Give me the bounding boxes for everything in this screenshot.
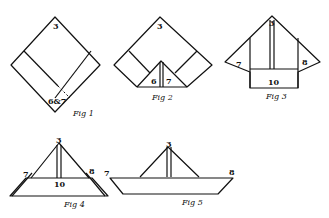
fig1-label-top: 3 xyxy=(53,21,59,31)
fig3-label-left: 7 xyxy=(236,59,242,69)
fig3-caption: Fig 3 xyxy=(265,92,287,101)
fig4-label-center: 10 xyxy=(54,179,66,189)
fig2: 3 6 7 Fig 2 xyxy=(114,17,212,102)
fig2-label-right: 7 xyxy=(166,76,172,86)
fig3-label-right: 8 xyxy=(302,57,308,67)
fig2-caption: Fig 2 xyxy=(151,93,173,102)
fig1-label-bottom: 6&7 xyxy=(48,96,66,106)
fig2-label-left: 6 xyxy=(151,76,157,86)
fig5-label-top: 3 xyxy=(166,139,172,149)
fig1: 3 6&7 Fig 1 xyxy=(11,17,100,118)
fig2-label-top: 3 xyxy=(157,21,163,31)
fig4-label-left: 7 xyxy=(23,169,29,179)
fig5-caption: Fig 5 xyxy=(181,198,203,207)
fig4: 3 7 8 10 Fig 4 xyxy=(10,135,108,209)
fig3-label-bottom: 10 xyxy=(268,77,280,87)
fig4-caption: Fig 4 xyxy=(63,200,85,209)
fig4-label-top: 3 xyxy=(56,135,62,145)
fig3: 3 7 8 10 Fig 3 xyxy=(225,16,320,101)
fig5-label-left: 7 xyxy=(104,168,110,178)
fig3-label-top: 3 xyxy=(269,18,275,28)
fig5-label-right: 8 xyxy=(229,167,235,177)
folding-diagram: 3 6&7 Fig 1 3 6 7 Fig 2 3 7 8 10 Fig 3 xyxy=(0,0,329,218)
fig1-caption: Fig 1 xyxy=(72,109,94,118)
fig5: 3 7 8 Fig 5 xyxy=(104,139,235,207)
fig4-label-right: 8 xyxy=(89,166,95,176)
